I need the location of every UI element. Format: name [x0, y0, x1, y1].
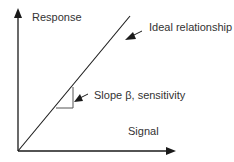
- y-axis-arrowhead-icon: [14, 8, 22, 18]
- x-axis-label: Signal: [128, 126, 159, 137]
- slope-label: Slope β, sensitivity: [94, 90, 185, 101]
- x-axis-arrowhead-icon: [166, 147, 176, 155]
- ideal-relationship-label: Ideal relationship: [149, 22, 232, 33]
- y-axis-label: Response: [32, 12, 82, 23]
- slope-arrowhead-icon: [74, 94, 83, 102]
- slope-triangle: [56, 87, 73, 108]
- ideal-relationship-arrowhead-icon: [125, 32, 136, 40]
- ideal-relationship-line: [18, 16, 130, 151]
